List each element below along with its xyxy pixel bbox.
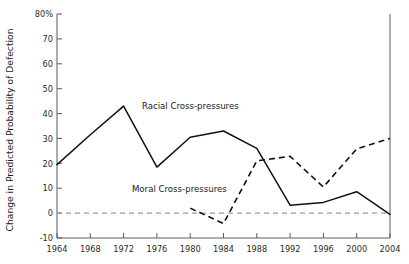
y-tick-label: 40 (43, 109, 53, 119)
x-tick-label: 1984 (213, 244, 234, 254)
series-label-moral-cross-pressures: Moral Cross-pressures (132, 184, 227, 194)
x-axis-ticks (57, 233, 390, 238)
x-tick-label: 1972 (113, 244, 134, 254)
series-line-racial-cross-pressures (57, 106, 390, 214)
x-tick-label: 2000 (346, 244, 367, 254)
y-tick-label: 10 (43, 183, 53, 193)
y-tick-label: 60 (43, 59, 53, 69)
y-tick-label: 50 (43, 84, 53, 94)
x-tick-label: 1964 (47, 244, 68, 254)
y-axis-tick-labels: 80% 70 60 50 40 30 20 10 0 -10 (35, 9, 53, 243)
y-tick-label: -10 (40, 233, 53, 243)
x-axis-tick-labels: 1964 1968 1972 1976 1980 1984 1988 1992 … (47, 244, 401, 254)
x-tick-label: 1992 (280, 244, 301, 254)
y-axis-ticks (57, 14, 62, 238)
line-chart: Change in Predicted Probability of Defec… (0, 0, 409, 264)
series-line-moral-cross-pressures (190, 138, 390, 223)
x-tick-label: 1980 (180, 244, 201, 254)
axis-frame (57, 14, 390, 238)
x-tick-label: 1988 (246, 244, 267, 254)
y-tick-label: 80% (35, 9, 53, 19)
y-tick-label: 20 (43, 159, 53, 169)
chart-figure: Change in Predicted Probability of Defec… (0, 0, 409, 264)
y-tick-label: 30 (43, 134, 53, 144)
y-tick-label: 70 (43, 34, 53, 44)
x-tick-label: 1968 (80, 244, 101, 254)
series-label-racial-cross-pressures: Racial Cross-pressures (142, 101, 239, 111)
y-axis-title: Change in Predicted Probability of Defec… (4, 28, 15, 231)
y-tick-label: 0 (48, 208, 53, 218)
x-tick-label: 1996 (313, 244, 334, 254)
x-tick-label: 1976 (146, 244, 167, 254)
x-tick-label: 2004 (380, 244, 401, 254)
